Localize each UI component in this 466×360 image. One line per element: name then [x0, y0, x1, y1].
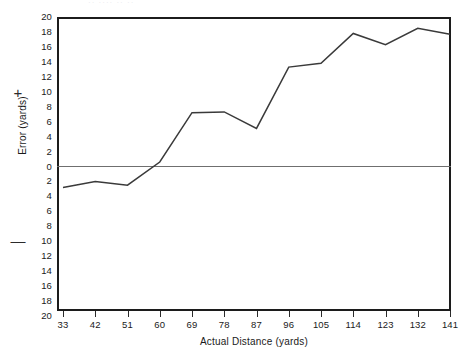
x-tick-mark	[224, 311, 225, 317]
y-tick-label: 6	[26, 117, 52, 127]
x-tick-mark	[192, 311, 193, 317]
y-tick-label: 2	[26, 147, 52, 157]
x-tick-label: 141	[433, 319, 466, 330]
x-tick-mark	[450, 311, 451, 317]
y-axis-title: Error (yards)	[17, 66, 28, 186]
negative-sign-marker: —	[10, 233, 26, 248]
x-tick-label: 123	[369, 319, 403, 330]
x-tick-mark	[289, 311, 290, 317]
y-axis-tick-labels: 201816141210864202468101214161820	[26, 0, 52, 360]
y-tick-label: 8	[26, 102, 52, 112]
x-axis-title: Actual Distance (yards)	[57, 336, 451, 347]
y-tick-label: 8	[26, 221, 52, 231]
x-tick-mark	[128, 311, 129, 317]
y-tick-label: 10	[26, 236, 52, 246]
error-series-line	[63, 28, 450, 187]
y-tick-label: 0	[26, 162, 52, 172]
y-tick-label: 14	[26, 266, 52, 276]
x-tick-label: 33	[46, 319, 80, 330]
x-tick-label: 51	[111, 319, 145, 330]
x-tick-label: 87	[240, 319, 274, 330]
y-tick-label: 18	[26, 27, 52, 37]
x-tick-label: 96	[272, 319, 306, 330]
x-tick-label: 105	[304, 319, 338, 330]
x-tick-label: 132	[401, 319, 435, 330]
x-tick-label: 60	[143, 319, 177, 330]
x-tick-label: 78	[207, 319, 241, 330]
y-tick-label: 10	[26, 87, 52, 97]
y-tick-label: 20	[26, 12, 52, 22]
y-tick-label: 2	[26, 176, 52, 186]
y-tick-label: 14	[26, 57, 52, 67]
x-tick-label: 69	[175, 319, 209, 330]
y-tick-label: 12	[26, 251, 52, 261]
x-tick-mark	[418, 311, 419, 317]
x-tick-mark	[353, 311, 354, 317]
y-tick-label: 6	[26, 206, 52, 216]
x-tick-mark	[95, 311, 96, 317]
x-tick-mark	[386, 311, 387, 317]
y-tick-label: 12	[26, 72, 52, 82]
y-tick-label: 16	[26, 281, 52, 291]
x-tick-mark	[257, 311, 258, 317]
y-tick-label: 18	[26, 296, 52, 306]
x-tick-label: 114	[336, 319, 370, 330]
x-tick-mark	[63, 311, 64, 317]
x-tick-label: 42	[78, 319, 112, 330]
x-tick-mark	[321, 311, 322, 317]
y-tick-label: 4	[26, 191, 52, 201]
y-tick-label: 16	[26, 42, 52, 52]
y-tick-label: 4	[26, 132, 52, 142]
x-tick-mark	[160, 311, 161, 317]
series-layer	[0, 0, 466, 360]
chart-figure: ·· ···· ·· ·· 20181614121086420246810121…	[0, 0, 466, 360]
